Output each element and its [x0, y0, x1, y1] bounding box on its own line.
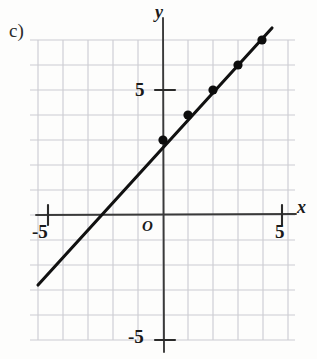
x-axis-label: x	[297, 198, 306, 216]
data-point	[208, 85, 217, 94]
y-tick-label-neg5: -5	[128, 327, 144, 346]
y-axis-label: y	[155, 3, 163, 21]
origin-label: O	[142, 219, 153, 234]
x-axis	[36, 214, 296, 215]
data-point	[257, 35, 266, 44]
coordinate-plane	[0, 0, 317, 359]
data-point	[233, 60, 242, 69]
data-point	[183, 110, 192, 119]
y-axis	[163, 18, 164, 352]
x-tick-label-neg5: -5	[32, 222, 48, 241]
part-label: c)	[9, 21, 24, 40]
graph-figure: c) y x O 5 -5 5 -5	[0, 0, 317, 359]
y-tick-label-5: 5	[135, 80, 145, 99]
x-tick-label-5: 5	[275, 222, 285, 241]
data-point	[158, 135, 167, 144]
axes-group	[36, 18, 296, 352]
